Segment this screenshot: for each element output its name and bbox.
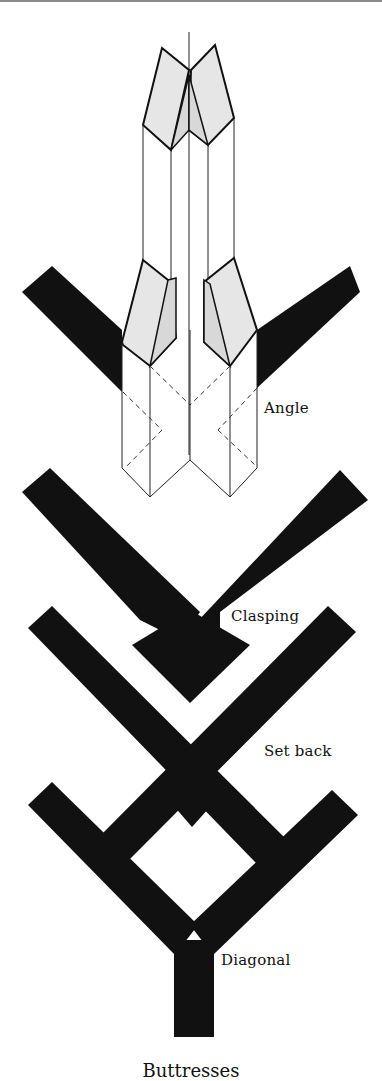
angle-buttress-drawing: [22, 32, 360, 497]
figure-caption: Buttresses: [0, 1060, 382, 1081]
label-clasping: Clasping: [231, 607, 299, 625]
label-diagonal: Diagonal: [221, 951, 290, 969]
label-angle: Angle: [264, 399, 309, 417]
label-set-back: Set back: [264, 742, 332, 760]
